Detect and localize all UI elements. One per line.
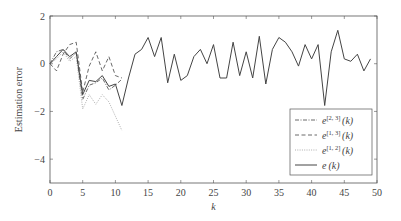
y-axis-label: Estimation error xyxy=(13,66,24,132)
x-tick-label: 10 xyxy=(110,187,120,198)
x-tick-label: 25 xyxy=(209,187,219,198)
x-tick-label: 30 xyxy=(241,187,251,198)
legend: e[2, 3](k)e[1, 3](k)e[1, 2](k)e(k) xyxy=(290,109,372,175)
y-tick-label: 0 xyxy=(40,58,45,69)
x-tick-label: 40 xyxy=(307,187,317,198)
x-tick-label: 50 xyxy=(372,187,382,198)
x-tick-label: 0 xyxy=(48,187,53,198)
y-tick-label: 2 xyxy=(40,11,45,22)
x-tick-label: 20 xyxy=(176,187,186,198)
x-tick-label: 5 xyxy=(80,187,85,198)
series-line-3 xyxy=(50,30,371,105)
series-line-0 xyxy=(50,49,122,99)
y-tick-label: −2 xyxy=(34,106,45,117)
y-tick-label: −4 xyxy=(34,154,45,165)
line-chart: 05101520253035404550−4−202 k Estimation … xyxy=(0,0,401,221)
x-axis-label: k xyxy=(211,201,216,212)
series-line-1 xyxy=(50,42,122,92)
x-tick-label: 35 xyxy=(274,187,284,198)
x-tick-label: 15 xyxy=(143,187,153,198)
x-tick-label: 45 xyxy=(339,187,349,198)
legend-entry: e(k) xyxy=(322,160,340,172)
